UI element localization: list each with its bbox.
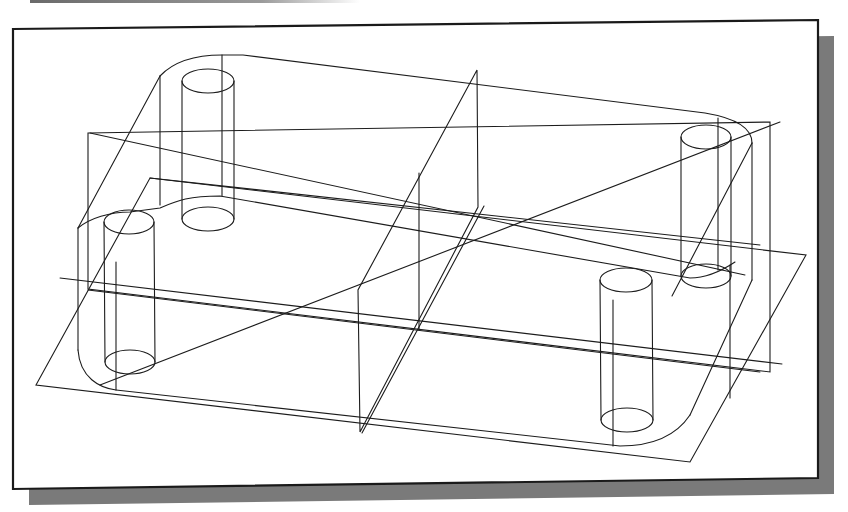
cad-wireframe-drawing	[0, 0, 848, 512]
figure-stage	[0, 0, 848, 512]
viewport-frame	[13, 20, 818, 489]
